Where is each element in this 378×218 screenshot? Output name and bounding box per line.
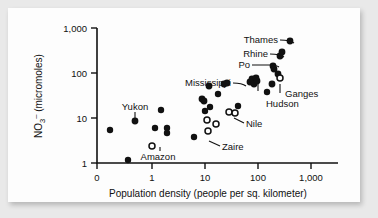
- annotation-yukon: Yukon: [122, 101, 148, 112]
- y-tick-label-1: 1: [82, 158, 87, 169]
- figure-card: 1,000 100 10 1 NO3– (micromoles) 0 1 10 …: [8, 8, 360, 202]
- annotation-zaire: Zaire: [222, 141, 244, 152]
- annotation-rhine: Rhine: [243, 48, 268, 59]
- svg-text:NO3– (micromoles): NO3– (micromoles): [31, 54, 47, 138]
- y-axis-title-base: NO: [33, 123, 44, 138]
- y-axis-ticks: [91, 28, 97, 163]
- x-tick-label-100: 100: [250, 172, 266, 183]
- y-axis-title-rest: (micromoles): [33, 54, 44, 115]
- x-tick-label-10: 10: [200, 172, 211, 183]
- annotation-mississippi: Mississippi: [185, 77, 231, 88]
- annotation-thames: Thames: [244, 34, 279, 45]
- y-axis-title: NO3– (micromoles): [31, 54, 47, 138]
- annotation-nile: Nile: [246, 118, 262, 129]
- annotation-amazon: Amazon: [141, 151, 176, 162]
- y-tick-label-1000: 1,000: [63, 23, 87, 34]
- annotation-po: Po: [238, 59, 250, 70]
- x-axis-ticks: [97, 163, 311, 169]
- x-tick-label-1: 1: [149, 172, 154, 183]
- y-tick-label-10: 10: [76, 113, 87, 124]
- x-axis-title: Population density (people per sq. kilom…: [109, 188, 307, 199]
- scatter-plot: 1,000 100 10 1 NO3– (micromoles) 0 1 10 …: [8, 8, 360, 202]
- x-tick-label-1000: 1,000: [299, 172, 323, 183]
- plot-svg: 1,000 100 10 1 NO3– (micromoles) 0 1 10 …: [8, 8, 360, 202]
- annotation-hudson: Hudson: [266, 98, 299, 109]
- x-tick-label-0: 0: [94, 172, 99, 183]
- y-tick-label-100: 100: [71, 68, 87, 79]
- annotation-leaders: [135, 40, 294, 151]
